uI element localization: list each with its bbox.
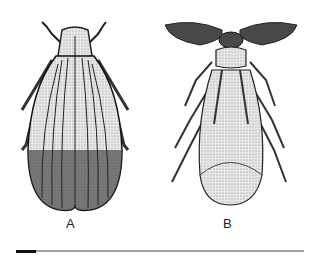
panel-label-a: A [66, 216, 75, 231]
winged-insect-illustration-b [165, 22, 297, 205]
panel-label-b: B [223, 216, 232, 231]
figure-canvas [0, 0, 319, 256]
beetle-illustration-a [22, 22, 128, 210]
scale-bar-segment [16, 250, 36, 253]
